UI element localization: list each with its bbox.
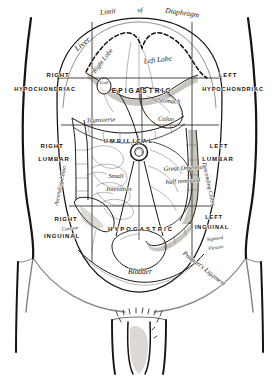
left-lumbar-line1: LEFT <box>210 143 229 149</box>
right-inguinal-line1: RIGHT <box>54 216 77 222</box>
left-inguinal-line1: LEFT <box>205 214 223 220</box>
left-hypochondriac-line1: LEFT <box>219 72 238 78</box>
right-lumbar-line2: LUMBAR <box>38 156 69 162</box>
region-label-epigastric: EPIGASTRIC <box>112 87 172 94</box>
anatomical-plate: Limit of Diaphragm Liver Right Lobe Left… <box>0 0 279 379</box>
small-intestines-line2-label: Intestines <box>105 185 132 192</box>
right-inguinal-line2: INGUINAL <box>44 233 80 239</box>
left-inguinal-line2: INGUINAL <box>195 224 229 230</box>
right-hypochondriac-line2: HYPOCHONDRIAC <box>14 86 76 92</box>
right-lumbar-line1: RIGHT <box>40 143 63 149</box>
gall-bladder-label: Gall <box>100 80 110 85</box>
small-intestines-line1-label: Small <box>108 172 123 179</box>
right-hypochondriac-line1: RIGHT <box>46 72 69 78</box>
bladder-label: Bladder <box>128 267 152 276</box>
colon-label: Colon <box>158 115 175 123</box>
left-hypochondriac-line2: HYPOCHONDRIAC <box>202 86 264 92</box>
region-label-hypogastric: HYPOGASTRIC <box>108 226 174 232</box>
region-label-umbilical: UMBILICAL <box>104 138 155 144</box>
